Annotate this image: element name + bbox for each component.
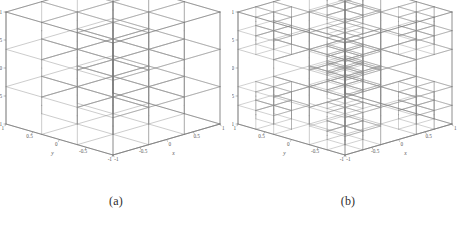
subcell-center-dot [327,0,328,1]
z-axis-tick-label: 0.5 [0,37,2,43]
mesh-edge-top [274,31,292,36]
x-axis-label: x [171,150,175,156]
x-axis-tick [452,124,453,126]
mesh-edge-front [416,111,434,116]
cell-center-dot [309,20,310,21]
cell-center-dot [184,67,185,68]
mesh-edge-front [399,124,417,129]
mesh-edge-front [416,100,434,105]
mesh-edge-right [434,44,452,49]
subcell-center-dot [434,95,435,96]
mesh-edge-top [42,97,78,107]
mesh-edge-top [6,76,42,86]
mesh-edge-top [381,87,399,92]
mesh-edge-top [77,18,113,28]
x-axis-tick-label: -1 [114,156,119,162]
cell-center-dot [380,20,381,21]
cell-center-dot [41,105,42,106]
mesh-edge-front [416,44,434,49]
mesh-edge-front [292,105,310,110]
mesh-edge-front [113,103,149,113]
x-axis-tick-label: 1 [454,125,457,131]
mesh-edge-top [113,22,149,32]
mesh-edge-top [238,87,256,92]
mesh-edge-right [434,100,452,105]
mesh-edge-top [256,100,274,105]
mesh-edge-top [274,12,292,17]
mesh-edge-top [327,113,345,118]
mesh-edge-top [416,7,434,12]
mesh-edge-top [256,95,274,100]
x-axis-tick-label: 0 [401,141,404,147]
mesh-edge-right [113,56,149,66]
mesh-edge-top [113,12,149,22]
mesh-edge-right [274,49,292,54]
mesh-edge-front [77,76,113,86]
x-axis-tick-label: -0.5 [139,148,148,154]
mesh-edge-top [399,92,417,97]
mesh-edge-right [363,140,381,145]
subcell-center-dot [291,39,292,40]
mesh-edge-right [416,39,434,44]
mesh-edge-right [292,119,310,124]
x-axis-tick-label: 0.5 [193,133,200,139]
y-axis-tick-label: -1 [108,156,113,162]
mesh-edge-right [113,18,149,28]
mesh-edge-front [434,49,452,54]
mesh-edge-front [77,39,113,49]
mesh-edge-top [238,31,256,36]
x-axis-label: x [403,150,407,156]
mesh-edge-top [274,60,310,70]
cell-center-dot [416,67,417,68]
y-axis-tick-label: 0 [55,141,58,147]
mesh-edge-right [399,44,417,49]
mesh-edge-right [42,114,78,124]
y-axis-tick [5,124,6,126]
mesh-edge-right [345,18,363,23]
cell-center-dot [77,20,78,21]
mesh-edge-top [113,76,149,86]
cube-outline-edge [6,124,113,155]
mesh-edge-top [256,92,274,97]
mesh-edge-top [381,7,399,12]
cube-outline-edge [113,0,220,12]
mesh-edge-top [327,28,345,33]
mesh-edge-top [113,0,149,2]
mesh-edge-top [42,76,78,86]
subcell-center-dot [327,116,328,117]
mesh-edge-right [434,26,452,31]
mesh-edge-front [274,100,292,105]
mesh-edge-top [77,49,113,59]
subcell-center-dot [434,21,435,22]
x-axis-tick-label: -0.5 [371,148,380,154]
subcell-center-dot [362,0,363,1]
z-axis-tick-label: -0.5 [232,93,234,99]
mesh-edge-top [399,100,417,105]
mesh-edge-front [113,107,149,117]
mesh-edge-top [327,33,345,38]
mesh-edge-top [149,87,185,97]
subcell-center-dot [327,135,328,136]
mesh-edge-right [184,76,220,86]
mesh-edge-top [149,2,185,12]
mesh-edge-front [113,66,149,76]
mesh-edge-front [256,124,274,129]
mesh-edge-front [184,87,220,97]
mesh-edge-top [113,97,149,107]
mesh-edge-front [327,10,345,15]
mesh-edge-top [399,26,417,31]
z-axis-tick-label: 0 [0,65,2,71]
mesh-edge-top [256,76,274,81]
mesh-edge-top [238,82,256,87]
mesh-edge-front [327,103,345,108]
caption-b: (b) [232,194,464,209]
mesh-edge-top [149,12,185,22]
mesh-edge-top [399,2,417,7]
mesh-edge-front [345,121,363,126]
mesh-edge-top [327,121,345,126]
subcell-center-dot [255,39,256,40]
mesh-edge-right [256,44,274,49]
subcell-center-dot [291,95,292,96]
mesh-edge-front [274,26,292,31]
mesh-edge-right [327,98,345,103]
